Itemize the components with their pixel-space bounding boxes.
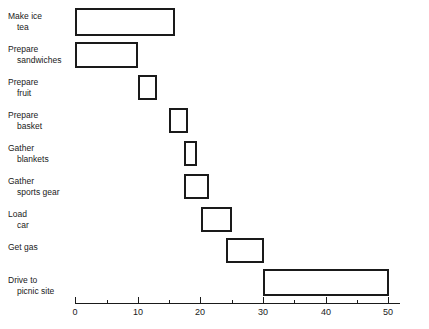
- x-axis-line: [75, 303, 400, 304]
- gantt-bar: [263, 269, 389, 296]
- task-label: Drive to picnic site: [8, 275, 70, 297]
- gantt-bar: [201, 207, 232, 232]
- task-label-line2: sandwiches: [8, 55, 70, 66]
- x-axis-tick-major: [138, 297, 139, 304]
- task-row: Make ice tea: [0, 5, 429, 38]
- gantt-bar: [184, 174, 209, 199]
- task-label-line2: basket: [8, 121, 70, 132]
- task-label: Prepare fruit: [8, 77, 70, 99]
- gantt-bar: [169, 108, 188, 133]
- task-row: Gather sports gear: [0, 170, 429, 203]
- x-axis-tick-minor: [169, 300, 170, 304]
- gantt-bar: [75, 8, 175, 36]
- x-axis-tick-label: 20: [185, 307, 215, 317]
- task-label-line2: fruit: [8, 88, 70, 99]
- x-axis-tick-major: [326, 297, 327, 304]
- task-label: Gather sports gear: [8, 176, 70, 198]
- x-axis-tick-minor: [232, 300, 233, 304]
- task-label: Load car: [8, 209, 70, 231]
- task-row: Prepare sandwiches: [0, 38, 429, 71]
- task-label-line1: Gather: [8, 176, 34, 186]
- task-label-line1: Prepare: [8, 44, 38, 54]
- task-label: Get gas: [8, 242, 70, 253]
- x-axis-tick-minor: [107, 300, 108, 304]
- gantt-bar: [138, 75, 157, 100]
- task-label: Prepare sandwiches: [8, 44, 70, 66]
- task-row: Prepare fruit: [0, 71, 429, 104]
- task-label-line2: car: [8, 220, 70, 231]
- x-axis-tick-major: [388, 297, 389, 304]
- task-row: Drive to picnic site: [0, 269, 429, 302]
- task-row: Load car: [0, 203, 429, 236]
- task-label-line1: Gather: [8, 143, 34, 153]
- task-label-line2: blankets: [8, 154, 70, 165]
- task-label: Prepare basket: [8, 110, 70, 132]
- task-row: Get gas: [0, 236, 429, 269]
- task-row: Gather blankets: [0, 137, 429, 170]
- gantt-bar: [75, 42, 138, 68]
- task-label: Make ice tea: [8, 11, 70, 33]
- task-label-line2: tea: [8, 22, 70, 33]
- task-label-line1: Get gas: [8, 242, 38, 252]
- x-axis-tick-label: 10: [123, 307, 153, 317]
- x-axis-tick-minor: [294, 300, 295, 304]
- plot-area: Make ice tea Prepare sandwiches Prepare …: [0, 0, 429, 329]
- task-label-line1: Prepare: [8, 110, 38, 120]
- gantt-bar: [226, 238, 264, 263]
- task-label-line2: sports gear: [8, 187, 70, 198]
- x-axis-tick-label: 50: [373, 307, 403, 317]
- x-axis-tick-label: 0: [60, 307, 90, 317]
- x-axis-tick-major: [75, 297, 76, 304]
- task-label-line2: picnic site: [8, 286, 70, 297]
- task-label-line1: Prepare: [8, 77, 38, 87]
- task-label: Gather blankets: [8, 143, 70, 165]
- task-label-line1: Load: [8, 209, 27, 219]
- x-axis-tick-minor: [357, 300, 358, 304]
- task-label-line1: Drive to: [8, 275, 37, 285]
- gantt-bar: [184, 141, 197, 166]
- task-row: Prepare basket: [0, 104, 429, 137]
- x-axis-tick-label: 40: [311, 307, 341, 317]
- x-axis-tick-major: [263, 297, 264, 304]
- x-axis-tick-major: [200, 297, 201, 304]
- x-axis-tick-label: 30: [248, 307, 278, 317]
- gantt-chart: Make ice tea Prepare sandwiches Prepare …: [0, 0, 429, 329]
- task-label-line1: Make ice: [8, 11, 42, 21]
